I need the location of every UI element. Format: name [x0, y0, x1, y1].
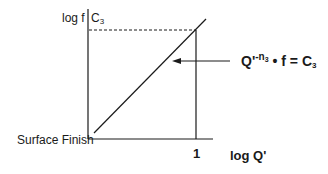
y-axis-label: log f: [62, 12, 85, 24]
arrow-head-icon: [172, 58, 181, 64]
equation-base: Q': [241, 53, 255, 69]
y-axis-top-label: C3: [91, 12, 104, 26]
origin-label: Surface Finish: [17, 134, 94, 146]
c-subscript: 3: [100, 17, 104, 26]
x-axis-label: log Q': [230, 149, 266, 162]
exponent-n: -n: [255, 51, 264, 62]
equation-exponent: -n3: [255, 51, 268, 62]
equation: Q'-n3 • f = C3: [241, 52, 316, 70]
diagram-canvas: [0, 0, 328, 174]
x-tick-label: 1: [193, 147, 200, 160]
equation-middle: • f = C: [269, 53, 312, 69]
equation-rhs-subscript: 3: [312, 61, 316, 70]
c-symbol: C: [91, 11, 100, 25]
diagonal-line: [94, 19, 206, 133]
